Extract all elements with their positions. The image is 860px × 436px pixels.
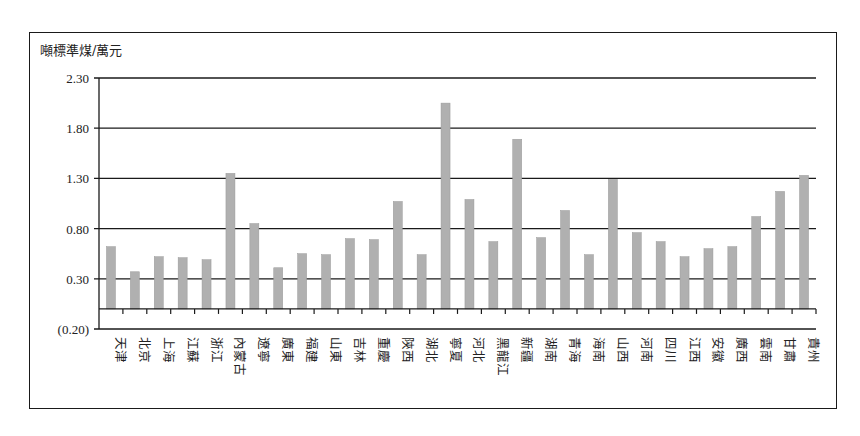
- bar: [537, 238, 546, 309]
- bars: [106, 103, 808, 309]
- x-category-label: 青海: [567, 337, 582, 363]
- svg-text:山東: 山東: [328, 337, 343, 363]
- svg-text:福建: 福建: [304, 337, 319, 363]
- svg-text:北京: 北京: [137, 337, 152, 363]
- svg-text:河南: 河南: [639, 337, 654, 363]
- svg-text:四川: 四川: [663, 337, 678, 363]
- x-category-label: 海南: [591, 337, 606, 363]
- y-tick-labels: 2.301.801.300.800.30(0.20): [58, 71, 89, 337]
- x-category-label: 湖北: [424, 337, 439, 363]
- bar: [274, 268, 283, 309]
- bar: [226, 173, 235, 309]
- x-category-label: 陝西: [400, 337, 415, 363]
- bar: [465, 199, 474, 308]
- bar: [345, 239, 354, 309]
- y-tick-label: 1.30: [66, 171, 89, 186]
- y-tick-label: (0.20): [58, 322, 89, 337]
- bar: [417, 255, 426, 309]
- x-category-label: 上海: [161, 337, 176, 363]
- x-category-label: 甘肅: [782, 337, 797, 363]
- x-category-label: 雲南: [758, 337, 773, 363]
- svg-text:上海: 上海: [161, 337, 176, 363]
- svg-text:重慶: 重慶: [376, 337, 391, 363]
- svg-text:甘肅: 甘肅: [782, 337, 797, 363]
- svg-text:吉林: 吉林: [352, 337, 367, 363]
- bar: [250, 224, 259, 309]
- bar: [800, 175, 809, 309]
- bar: [728, 247, 737, 309]
- bar: [680, 257, 689, 309]
- svg-text:安徽: 安徽: [710, 337, 725, 363]
- x-category-label: 浙江: [209, 337, 224, 363]
- bar: [584, 255, 593, 309]
- x-category-label: 山西: [615, 337, 630, 363]
- bar: [489, 242, 498, 309]
- x-category-label: 北京: [137, 337, 152, 363]
- svg-text:寧夏: 寧夏: [448, 337, 463, 363]
- bar: [202, 260, 211, 309]
- svg-text:青海: 青海: [567, 337, 582, 363]
- bar: [178, 258, 187, 309]
- y-tick-label: 0.80: [66, 222, 89, 237]
- x-category-label: 貴州: [806, 337, 821, 363]
- x-category-label: 內蒙古: [232, 337, 247, 376]
- svg-text:新疆: 新疆: [519, 337, 534, 363]
- x-category-label: 天津: [113, 337, 128, 363]
- x-category-label: 江蘇: [185, 337, 200, 363]
- svg-text:湖北: 湖北: [424, 337, 439, 363]
- bar: [656, 242, 665, 309]
- bar: [704, 249, 713, 309]
- y-tick-label: 0.30: [66, 272, 89, 287]
- y-tick-label: 1.80: [66, 121, 89, 136]
- x-category-label: 安徽: [710, 337, 725, 363]
- y-tick-label: 2.30: [66, 71, 89, 86]
- svg-text:遼寧: 遼寧: [256, 337, 271, 363]
- x-category-label: 重慶: [376, 337, 391, 363]
- bar: [322, 255, 331, 309]
- x-category-label: 江西: [687, 337, 702, 363]
- svg-text:內蒙古: 內蒙古: [232, 337, 247, 376]
- svg-text:江蘇: 江蘇: [185, 337, 200, 363]
- x-category-label: 廣東: [280, 337, 295, 363]
- x-category-labels: 天津北京上海江蘇浙江內蒙古遼寧廣東福建山東吉林重慶陝西湖北寧夏河北黑龍江新疆湖南…: [113, 337, 821, 376]
- svg-text:廣西: 廣西: [734, 337, 749, 363]
- x-category-label: 新疆: [519, 337, 534, 363]
- bar: [561, 211, 570, 309]
- bar: [106, 247, 115, 309]
- svg-text:山西: 山西: [615, 337, 630, 363]
- svg-text:黑龍江: 黑龍江: [495, 337, 510, 376]
- bar: [513, 139, 522, 309]
- bar: [752, 217, 761, 309]
- bar: [608, 179, 617, 309]
- x-category-label: 湖南: [543, 337, 558, 363]
- x-category-label: 河南: [639, 337, 654, 363]
- svg-text:陝西: 陝西: [400, 337, 415, 363]
- x-category-label: 吉林: [352, 337, 367, 363]
- x-category-label: 福建: [304, 337, 319, 363]
- bar: [154, 257, 163, 309]
- x-category-label: 山東: [328, 337, 343, 363]
- svg-text:天津: 天津: [113, 337, 128, 363]
- svg-text:雲南: 雲南: [758, 337, 773, 363]
- bar: [776, 191, 785, 308]
- svg-text:貴州: 貴州: [806, 337, 821, 363]
- svg-text:湖南: 湖南: [543, 337, 558, 363]
- x-category-label: 四川: [663, 337, 678, 363]
- x-category-label: 河北: [471, 337, 486, 363]
- bar-chart: 2.301.801.300.800.30(0.20) 天津北京上海江蘇浙江內蒙古…: [0, 0, 860, 436]
- svg-text:海南: 海南: [591, 337, 606, 363]
- svg-text:廣東: 廣東: [280, 337, 295, 363]
- bar: [632, 233, 641, 309]
- x-category-label: 遼寧: [256, 337, 271, 363]
- x-category-label: 黑龍江: [495, 337, 510, 376]
- bar: [298, 254, 307, 309]
- bar: [393, 201, 402, 308]
- svg-text:江西: 江西: [687, 337, 702, 363]
- bar: [369, 240, 378, 309]
- bar: [441, 103, 450, 309]
- svg-text:河北: 河北: [471, 337, 486, 363]
- x-category-label: 寧夏: [448, 337, 463, 363]
- svg-text:浙江: 浙江: [209, 337, 224, 363]
- x-category-label: 廣西: [734, 337, 749, 363]
- bar: [130, 272, 139, 309]
